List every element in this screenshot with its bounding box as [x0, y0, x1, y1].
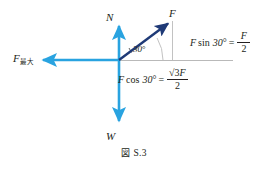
eq-cos-denominator: 2 — [173, 80, 182, 91]
eq-cos-equals: = — [156, 75, 166, 85]
eq-cos-function: cos — [124, 75, 139, 85]
eq-cos-angle: 30 — [139, 75, 152, 85]
label-weight: W — [106, 131, 115, 142]
eq-sin-function: sin — [196, 38, 210, 48]
eq-sin-angle: 30 — [210, 38, 223, 48]
figure-container: N W F F最大 30° F sin 30° = F 2 F cos 30° … — [0, 0, 268, 169]
eq-cos-numerator-symbol: F — [180, 67, 186, 78]
vector-applied-force — [119, 24, 168, 61]
equation-horizontal-component: F cos 30° = √3F 2 — [118, 68, 189, 91]
eq-sin-equals: = — [227, 38, 237, 48]
eq-sin-denominator: 2 — [239, 43, 248, 54]
figure-caption: 図S.3 — [0, 146, 268, 159]
label-normal-force: N — [106, 12, 113, 23]
equation-vertical-component: F sin 30° = F 2 — [190, 31, 251, 54]
label-friction-max-subscript: 最大 — [20, 58, 34, 66]
angle-degree-symbol: ° — [142, 44, 146, 54]
label-applied-force: F — [169, 8, 176, 19]
eq-cos-numerator: √3F — [167, 68, 188, 79]
label-angle: 30° — [133, 44, 146, 54]
eq-sin-numerator: F — [239, 31, 249, 42]
figure-caption-id: S.3 — [131, 148, 147, 158]
eq-cos-fraction: √3F 2 — [167, 68, 188, 91]
angle-arc — [157, 38, 163, 60]
label-friction-max-symbol: F — [13, 52, 20, 64]
angle-value: 30 — [133, 44, 142, 54]
label-friction-max: F最大 — [13, 53, 33, 66]
eq-cos-radical: √3 — [169, 67, 180, 78]
figure-caption-jp: 図 — [121, 148, 130, 158]
eq-sin-fraction: F 2 — [237, 31, 250, 54]
